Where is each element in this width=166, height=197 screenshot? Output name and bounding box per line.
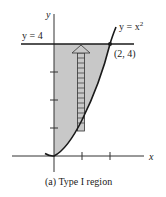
intersection-point: [108, 42, 112, 46]
y-axis-label: y: [45, 9, 51, 20]
line-label-y4: y = 4: [22, 30, 43, 41]
figure-caption: (a) Type I region: [45, 176, 112, 188]
x-axis-label: x: [148, 151, 154, 162]
curve-label: y = x2: [119, 20, 144, 32]
point-label: (2, 4): [114, 48, 136, 60]
type-one-region-diagram: y x y = 4 y = x2 (2, 4) (a) Type I regio…: [0, 0, 166, 197]
